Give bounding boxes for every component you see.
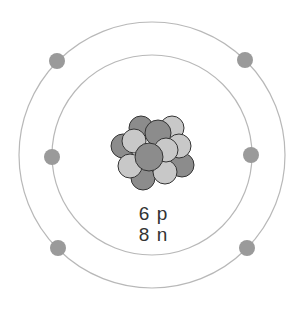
protons-label: 6 p — [0, 203, 307, 225]
atom-diagram — [0, 0, 307, 309]
electron — [243, 147, 259, 163]
nucleus — [111, 116, 194, 190]
electron — [44, 149, 60, 165]
electron — [49, 53, 65, 69]
neutrons-label: 8 n — [0, 224, 307, 246]
electron — [237, 52, 253, 68]
